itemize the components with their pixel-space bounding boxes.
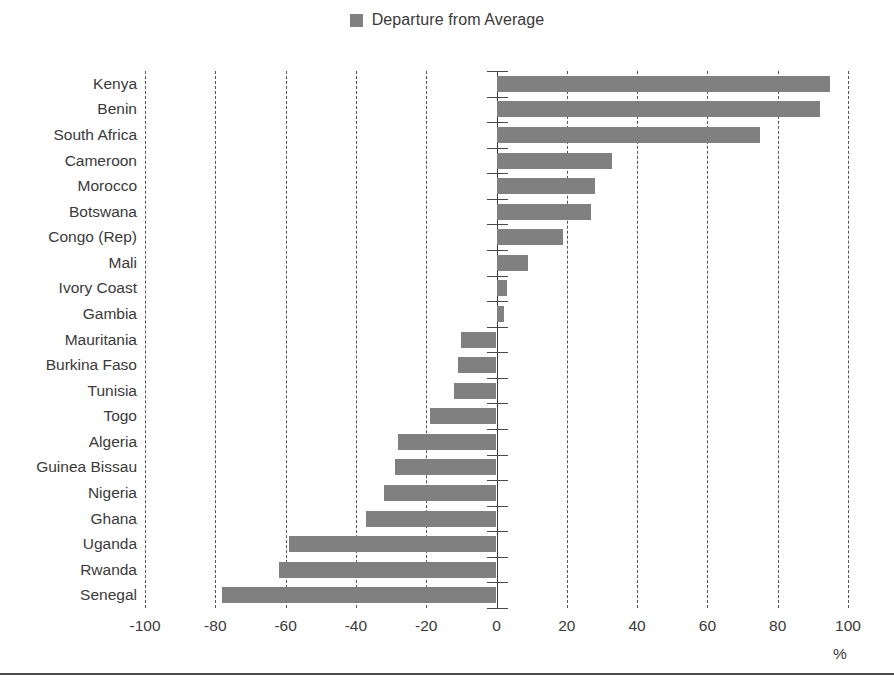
y-axis-tick-label: Togo bbox=[0, 408, 137, 424]
bar-row bbox=[145, 587, 848, 603]
y-axis-tick-label: Nigeria bbox=[0, 485, 137, 501]
y-axis-tick-label: Uganda bbox=[0, 536, 137, 552]
y-axis-tick-label: Gambia bbox=[0, 306, 137, 322]
y-axis-tick-label: Botswana bbox=[0, 204, 137, 220]
y-axis-tick-label: South Africa bbox=[0, 127, 137, 143]
bar-row bbox=[145, 127, 848, 143]
bar bbox=[461, 332, 496, 348]
bar bbox=[497, 178, 595, 194]
bar bbox=[497, 229, 564, 245]
bar bbox=[497, 204, 592, 220]
plot-area bbox=[145, 71, 848, 608]
y-axis-tick-label: Benin bbox=[0, 101, 137, 117]
x-axis-tick-label: 100 bbox=[835, 617, 861, 635]
bar-row bbox=[145, 383, 848, 399]
legend-label: Departure from Average bbox=[372, 11, 545, 29]
y-axis-tick-label: Mali bbox=[0, 255, 137, 271]
y-axis-tick-label: Algeria bbox=[0, 434, 137, 450]
bar bbox=[458, 357, 497, 373]
y-axis-tick-label: Tunisia bbox=[0, 383, 137, 399]
bar bbox=[497, 127, 761, 143]
bar bbox=[497, 280, 508, 296]
x-axis-unit-label: % bbox=[833, 645, 847, 663]
bar-row bbox=[145, 536, 848, 552]
x-axis-tick-label: -80 bbox=[204, 617, 226, 635]
y-axis-tick-label: Mauritania bbox=[0, 332, 137, 348]
y-axis-tick-label: Guinea Bissau bbox=[0, 459, 137, 475]
bar-row bbox=[145, 101, 848, 117]
x-axis-tick-label: -100 bbox=[129, 617, 160, 635]
bar bbox=[279, 562, 497, 578]
bar bbox=[366, 511, 496, 527]
y-axis-labels: KenyaBeninSouth AfricaCameroonMoroccoBot… bbox=[0, 71, 137, 608]
bar-row bbox=[145, 357, 848, 373]
bar-row bbox=[145, 229, 848, 245]
bottom-divider bbox=[0, 673, 894, 675]
y-axis-tick-label: Ivory Coast bbox=[0, 280, 137, 296]
y-axis-tick-label: Senegal bbox=[0, 587, 137, 603]
x-axis-tick-label: 60 bbox=[699, 617, 716, 635]
bar-row bbox=[145, 76, 848, 92]
bar bbox=[497, 76, 831, 92]
y-axis-tick-label: Morocco bbox=[0, 178, 137, 194]
bar bbox=[222, 587, 496, 603]
bar-row bbox=[145, 485, 848, 501]
bar-row bbox=[145, 204, 848, 220]
bar-row bbox=[145, 153, 848, 169]
bar-row bbox=[145, 459, 848, 475]
y-axis-tick-label: Burkina Faso bbox=[0, 357, 137, 373]
bar bbox=[497, 255, 529, 271]
bar-row bbox=[145, 511, 848, 527]
y-axis-tick-label: Congo (Rep) bbox=[0, 229, 137, 245]
bar bbox=[454, 383, 496, 399]
x-axis-labels: -100-80-60-40-20020406080100 bbox=[145, 617, 848, 641]
y-axis-tick-label: Kenya bbox=[0, 76, 137, 92]
chart-figure: Departure from Average KenyaBeninSouth A… bbox=[0, 0, 894, 686]
x-axis-tick-label: 20 bbox=[558, 617, 575, 635]
gridline-100 bbox=[848, 71, 849, 608]
bar bbox=[395, 459, 497, 475]
y-axis-tick-label: Ghana bbox=[0, 511, 137, 527]
bar-row bbox=[145, 280, 848, 296]
bar-row bbox=[145, 178, 848, 194]
x-axis-tick-label: -20 bbox=[415, 617, 437, 635]
bar-row bbox=[145, 306, 848, 322]
bar-row bbox=[145, 434, 848, 450]
x-axis-tick-label: 80 bbox=[769, 617, 786, 635]
bar-row bbox=[145, 408, 848, 424]
x-axis-tick-label: 40 bbox=[628, 617, 645, 635]
chart-legend: Departure from Average bbox=[0, 6, 894, 34]
bar-row bbox=[145, 332, 848, 348]
bar-series bbox=[145, 71, 848, 608]
bar-row bbox=[145, 562, 848, 578]
axis-tick bbox=[487, 608, 508, 609]
bar bbox=[497, 153, 613, 169]
bar bbox=[289, 536, 496, 552]
x-axis-tick-label: -40 bbox=[345, 617, 367, 635]
legend-swatch-icon bbox=[350, 14, 363, 27]
bar bbox=[398, 434, 496, 450]
y-axis-tick-label: Rwanda bbox=[0, 562, 137, 578]
bar bbox=[497, 306, 504, 322]
bar-row bbox=[145, 255, 848, 271]
bar bbox=[497, 101, 820, 117]
x-axis-tick-label: 0 bbox=[492, 617, 501, 635]
bar bbox=[384, 485, 496, 501]
x-axis-tick-label: -60 bbox=[274, 617, 296, 635]
y-axis-tick-label: Cameroon bbox=[0, 153, 137, 169]
bar bbox=[430, 408, 497, 424]
